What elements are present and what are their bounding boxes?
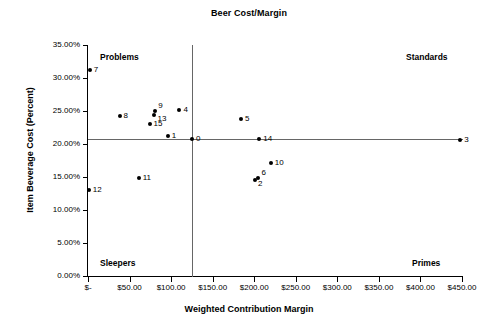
x-tick-label: $400.00 [406,283,435,292]
quadrant-label-problems: Problems [100,52,139,62]
y-tick-mark [83,78,88,79]
data-point-3[interactable] [458,138,462,142]
x-tick-label: $200.00 [240,283,269,292]
quadrant-label-sleepers: Sleepers [100,258,135,268]
y-tick-mark [83,177,88,178]
quadrant-label-standards: Standards [406,52,448,62]
x-tick-label: $150.00 [198,283,227,292]
data-point-13[interactable] [152,113,156,117]
x-tick-label: $300.00 [323,283,352,292]
y-tick-label: 15.00% [32,172,80,181]
data-point-7[interactable] [88,68,92,72]
y-tick-mark [83,111,88,112]
y-tick-label: 35.00% [32,40,80,49]
x-tick-label: $- [84,283,91,292]
data-point-label-3: 3 [464,135,468,144]
x-tick-mark [462,277,463,282]
x-tick-mark [379,277,380,282]
data-point-label-15: 15 [154,119,163,128]
data-point-11[interactable] [137,176,141,180]
x-tick-label: $250.00 [281,283,310,292]
data-point-label-5: 5 [245,114,249,123]
data-point-1[interactable] [166,134,170,138]
x-tick-mark [296,277,297,282]
data-point-label-1: 1 [172,131,176,140]
data-point-label-9: 9 [158,101,162,110]
x-tick-label: $350.00 [364,283,393,292]
y-tick-mark [83,243,88,244]
x-tick-mark [130,277,131,282]
y-tick-label: 5.00% [32,238,80,247]
y-tick-label: 25.00% [32,106,80,115]
data-point-label-11: 11 [143,173,151,182]
data-point-0[interactable] [190,137,194,141]
x-axis-title: Weighted Contribution Margin [0,304,498,314]
data-point-8[interactable] [118,114,122,118]
x-tick-label: $450.00 [448,283,477,292]
x-tick-label: $50.00 [117,283,141,292]
x-tick-label: $100.00 [157,283,186,292]
x-tick-mark [337,277,338,282]
data-point-4[interactable] [177,108,181,112]
chart-title: Beer Cost/Margin [0,8,498,18]
x-tick-mark [213,277,214,282]
data-point-label-12: 12 [93,185,102,194]
y-tick-mark [83,210,88,211]
y-tick-label: 0.00% [32,271,80,280]
data-point-label-4: 4 [183,105,187,114]
data-point-label-6: 6 [261,168,265,177]
x-axis-line [88,276,463,277]
x-tick-mark [88,277,89,282]
beer-cost-margin-scatter-chart: Beer Cost/Margin 0.00%5.00%10.00%15.00%2… [0,0,498,328]
y-tick-label: 10.00% [32,205,80,214]
y-tick-label: 20.00% [32,139,80,148]
y-tick-label: 30.00% [32,73,80,82]
y-axis-title: Item Beverage Cost (Percent) [25,40,35,260]
quadrant-label-primes: Primes [412,258,440,268]
data-point-2[interactable] [253,178,257,182]
data-point-10[interactable] [269,161,273,165]
y-tick-mark [83,144,88,145]
data-point-12[interactable] [87,188,91,192]
data-point-label-14: 14 [263,134,272,143]
data-point-15[interactable] [148,122,152,126]
data-point-label-2: 2 [258,179,262,188]
y-tick-mark [83,45,88,46]
x-tick-mark [171,277,172,282]
quadrant-divider-vertical [192,45,193,277]
quadrant-divider-horizontal [88,139,463,140]
data-point-14[interactable] [257,137,261,141]
x-tick-mark [420,277,421,282]
data-point-label-10: 10 [275,158,284,167]
x-tick-mark [254,277,255,282]
data-point-label-8: 8 [124,111,128,120]
data-point-label-0: 0 [196,134,200,143]
data-point-label-7: 7 [94,65,98,74]
data-point-5[interactable] [239,117,243,121]
